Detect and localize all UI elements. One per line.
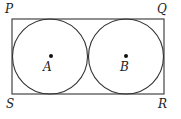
center-label-b: B [119, 60, 129, 74]
vertex-label-s: S [6, 97, 14, 111]
center-label-a: A [42, 60, 52, 74]
center-point-a [49, 54, 53, 58]
geometry-diagram: P Q R S A B [0, 0, 181, 119]
vertex-label-q: Q [157, 2, 167, 16]
center-point-b [124, 54, 128, 58]
vertex-label-p: P [4, 2, 14, 16]
vertex-label-r: R [157, 97, 167, 111]
